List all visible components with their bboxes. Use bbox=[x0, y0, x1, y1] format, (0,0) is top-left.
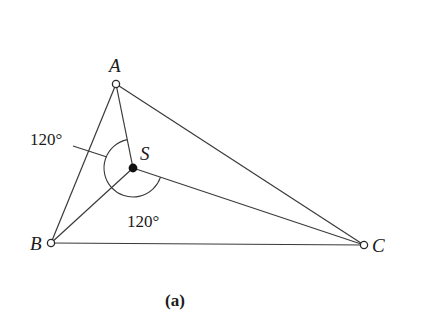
vertex-b bbox=[47, 239, 54, 246]
label-a: A bbox=[107, 55, 121, 76]
label-s: S bbox=[140, 143, 150, 164]
angle-label-asb: 120° bbox=[30, 130, 62, 149]
point-s bbox=[129, 164, 138, 173]
angle-label-bsc: 120° bbox=[127, 212, 159, 231]
angle-arc-asb bbox=[104, 140, 127, 188]
figure-caption: (a) bbox=[165, 291, 185, 310]
geometry-diagram: A B C S 120° 120° (a) bbox=[0, 0, 431, 327]
vertex-a bbox=[112, 80, 119, 87]
edge-ab bbox=[51, 84, 116, 243]
segment-sb bbox=[51, 168, 133, 243]
edge-bc bbox=[51, 243, 364, 245]
segment-sa bbox=[116, 84, 133, 168]
segment-sc bbox=[133, 168, 364, 245]
label-b: B bbox=[30, 233, 42, 254]
label-c: C bbox=[372, 235, 385, 256]
vertex-c bbox=[360, 241, 367, 248]
